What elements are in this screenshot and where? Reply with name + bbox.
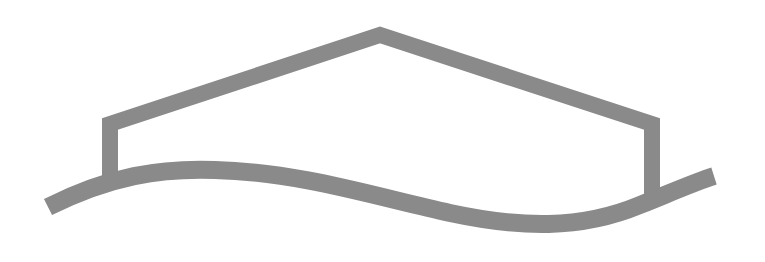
- logo-canvas: [0, 0, 765, 262]
- house-wave-logo-icon: [0, 0, 765, 262]
- house-outline-icon: [110, 35, 652, 205]
- wave-ground-icon: [48, 170, 714, 224]
